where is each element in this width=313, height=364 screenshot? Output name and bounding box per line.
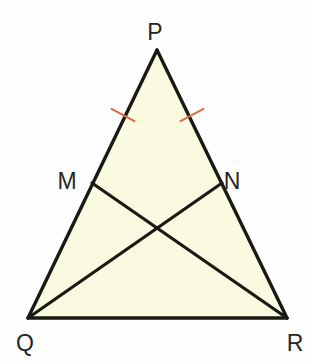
geometry-figure: P Q R M N <box>0 0 313 364</box>
point-label-n: N <box>224 168 241 194</box>
vertex-label-r: R <box>287 330 304 356</box>
vertex-label-q: Q <box>16 330 34 356</box>
point-label-m: M <box>57 168 76 194</box>
vertex-label-p: P <box>147 19 162 45</box>
triangle-diagram-svg: P Q R M N <box>0 0 313 364</box>
